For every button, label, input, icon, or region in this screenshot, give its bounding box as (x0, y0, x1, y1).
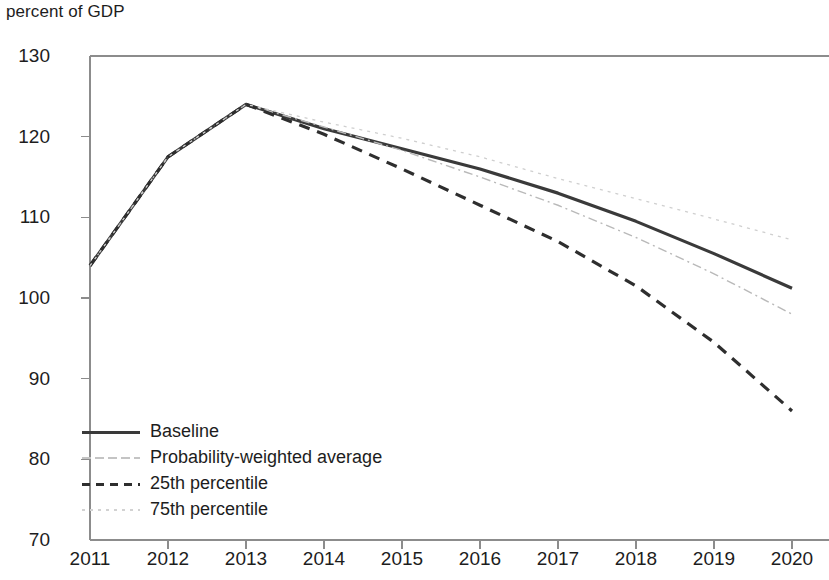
x-tick-label: 2016 (445, 548, 515, 570)
series-line (90, 104, 792, 314)
legend-swatch-icon (82, 424, 140, 438)
series-line (90, 104, 792, 288)
y-tick-label: 130 (4, 45, 50, 67)
legend-item: 25th percentile (82, 470, 382, 496)
y-tick-label: 80 (4, 448, 50, 470)
x-tick-label: 2012 (133, 548, 203, 570)
y-axis-title: percent of GDP (6, 2, 125, 22)
x-tick-label: 2015 (367, 548, 437, 570)
y-tick-label: 120 (4, 126, 50, 148)
legend-label: 75th percentile (150, 500, 268, 518)
x-tick-label: 2018 (601, 548, 671, 570)
legend-swatch-icon (82, 502, 140, 516)
legend-label: 25th percentile (150, 474, 268, 492)
x-tick-label: 2019 (679, 548, 749, 570)
legend-label: Baseline (150, 422, 219, 440)
y-tick-label: 100 (4, 287, 50, 309)
x-tick-label: 2011 (55, 548, 125, 570)
legend-label: Probability-weighted average (150, 448, 382, 466)
x-tick-label: 2020 (757, 548, 827, 570)
chart-figure: percent of GDP 708090100110120130 201120… (0, 0, 829, 580)
legend-item: 75th percentile (82, 496, 382, 522)
legend-item: Baseline (82, 418, 382, 444)
y-tick-label: 110 (4, 206, 50, 228)
series-line (90, 104, 792, 411)
x-tick-label: 2017 (523, 548, 593, 570)
x-tick-label: 2014 (289, 548, 359, 570)
legend-item: Probability-weighted average (82, 444, 382, 470)
legend-swatch-icon (82, 450, 140, 464)
y-tick-label: 90 (4, 368, 50, 390)
x-tick-label: 2013 (211, 548, 281, 570)
data-series-layer (90, 104, 792, 411)
y-tick-label: 70 (4, 529, 50, 551)
legend-swatch-icon (82, 476, 140, 490)
chart-legend: BaselineProbability-weighted average25th… (82, 418, 382, 522)
